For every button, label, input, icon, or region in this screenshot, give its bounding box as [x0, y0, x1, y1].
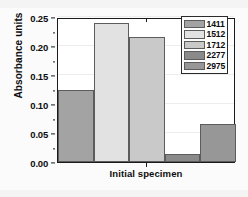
legend-label: 2975 [207, 62, 226, 71]
y-tick-mark-minor [53, 119, 56, 120]
y-tick-mark-minor [53, 148, 56, 149]
legend-label: 1512 [207, 30, 226, 39]
y-tick-mark [51, 133, 55, 134]
y-tick-label: 0.05 [30, 129, 48, 140]
y-tick-mark [51, 162, 55, 163]
legend-item-1512: 1512 [184, 29, 226, 40]
legend-item-2277: 2277 [184, 50, 226, 61]
y-tick-mark [51, 17, 55, 18]
y-axis: 0.000.050.100.150.200.25 [0, 18, 55, 163]
y-tick-label: 0.15 [30, 71, 48, 82]
y-tick-mark [51, 75, 55, 76]
y-tick-mark [51, 46, 55, 47]
y-tick-mark-minor [53, 61, 56, 62]
legend-swatch-icon [184, 41, 205, 49]
bar-2277 [165, 154, 201, 162]
legend: 14111512171222772975 [181, 16, 228, 74]
y-tick-mark [51, 104, 55, 105]
y-tick-label: 0.00 [30, 158, 48, 169]
x-axis-title: Initial specimen [57, 168, 235, 179]
x-axis-tick [146, 163, 147, 167]
legend-item-1712: 1712 [184, 40, 226, 51]
bar-1712 [129, 37, 165, 162]
legend-item-1411: 1411 [184, 19, 226, 30]
legend-swatch-icon [184, 51, 205, 59]
legend-swatch-icon [184, 30, 205, 38]
bar-1411 [58, 90, 94, 163]
legend-label: 2277 [207, 51, 226, 60]
y-tick-label: 0.10 [30, 100, 48, 111]
legend-label: 1712 [207, 41, 226, 50]
figure-container: 0.000.050.100.150.200.25 Absorbance unit… [0, 0, 248, 197]
x-axis-tick-top [146, 18, 147, 22]
y-tick-mark-minor [53, 32, 56, 33]
legend-swatch-icon [184, 20, 205, 28]
legend-swatch-icon [184, 62, 205, 70]
y-tick-mark-minor [53, 90, 56, 91]
bar-1512 [94, 23, 130, 162]
bar-2975 [200, 124, 236, 162]
legend-label: 1411 [207, 20, 225, 29]
y-tick-label: 0.20 [30, 42, 48, 53]
y-axis-title: Absorbance units [13, 0, 24, 112]
legend-item-2975: 2975 [184, 61, 226, 72]
y-tick-label: 0.25 [30, 13, 48, 24]
